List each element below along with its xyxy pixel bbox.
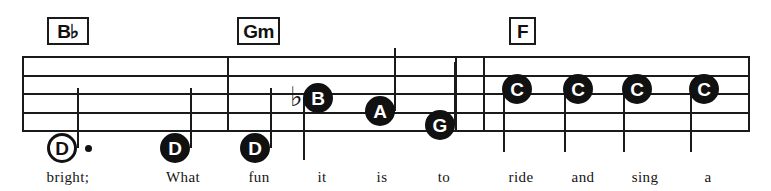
note-c-3[interactable]: C bbox=[622, 74, 652, 104]
note-d-2[interactable]: D bbox=[160, 133, 190, 163]
note-c-2[interactable]: C bbox=[563, 74, 593, 104]
chord-bb[interactable]: B♭ bbox=[47, 17, 89, 45]
lyric-and: and bbox=[572, 170, 595, 185]
staff-end-line bbox=[748, 56, 750, 132]
lyric-what: What bbox=[166, 170, 200, 185]
lyric-sing: sing bbox=[632, 170, 659, 185]
lyric-ride: ride bbox=[509, 170, 534, 185]
staff-line-5 bbox=[22, 130, 750, 132]
staff-line-1 bbox=[22, 56, 750, 58]
lyric-a: a bbox=[704, 170, 711, 185]
note-d-1[interactable]: D bbox=[47, 133, 77, 163]
note-a[interactable]: A bbox=[365, 96, 395, 126]
note-c-4[interactable]: C bbox=[689, 74, 719, 104]
chord-gm[interactable]: Gm bbox=[237, 17, 280, 45]
note-d-1-stem bbox=[77, 88, 79, 148]
note-d-3-stem bbox=[270, 88, 272, 148]
note-a-stem bbox=[394, 48, 396, 111]
lyric-to: to bbox=[438, 170, 450, 185]
lyric-is: is bbox=[377, 170, 388, 185]
note-d-3[interactable]: D bbox=[240, 133, 270, 163]
note-g-stem bbox=[454, 62, 456, 125]
music-notation-sheet: B♭GmF DDD♭BAGCCCC bright;Whatfunitistori… bbox=[0, 0, 771, 191]
barline-3 bbox=[483, 56, 485, 132]
note-d-2-stem bbox=[190, 88, 192, 148]
note-c-1[interactable]: C bbox=[502, 74, 532, 104]
lyric-bright: bright; bbox=[47, 170, 90, 185]
lyric-fun: fun bbox=[248, 170, 269, 185]
note-b-flat[interactable]: B bbox=[303, 83, 333, 113]
note-g[interactable]: G bbox=[425, 110, 455, 140]
note-b-flat-stem bbox=[303, 98, 305, 160]
staff-start-line bbox=[22, 56, 24, 132]
note-d-1-augmentation-dot bbox=[85, 145, 92, 152]
lyric-it: it bbox=[317, 170, 326, 185]
chord-f[interactable]: F bbox=[509, 17, 536, 45]
barline-1 bbox=[227, 56, 229, 132]
note-b-flat-flat-icon: ♭ bbox=[290, 83, 303, 110]
